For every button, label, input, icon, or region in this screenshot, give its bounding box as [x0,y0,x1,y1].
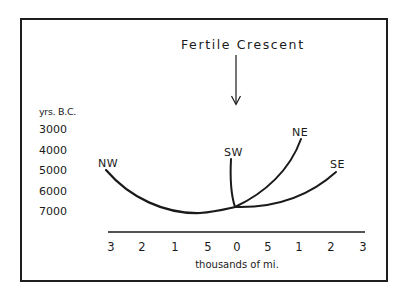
x-tick-w05: 5 [204,240,211,254]
y-label-7000: 7000 [39,205,67,218]
y-label-5000: 5000 [39,164,67,177]
branch-sw-curve [231,159,235,207]
down-arrow-icon [232,55,241,105]
branch-se-curve [235,172,336,207]
y-label-3000: 3000 [39,123,67,136]
branch-ne-curve [235,139,301,207]
diagram-title: Fertile Crescent [181,37,305,52]
x-tick-e05: 5 [264,240,271,254]
y-label-4000: 4000 [39,144,67,157]
x-tick-e1: 1 [295,240,302,254]
label-se: SE [330,158,345,171]
diagram-canvas: Fertile Crescent yrs. B.C. 3000 4000 500… [0,0,402,297]
y-axis-header: yrs. B.C. [39,106,76,117]
branch-nw-curve [106,170,235,213]
x-axis-label: thousands of mi. [195,259,279,270]
x-tick-w3: 3 [107,240,114,254]
x-tick-e3: 3 [359,240,366,254]
x-tick-e2: 2 [327,240,334,254]
label-sw: SW [224,146,243,159]
label-nw: NW [98,157,118,170]
y-label-6000: 6000 [39,185,67,198]
x-tick-w1: 1 [171,240,178,254]
x-tick-0: 0 [233,240,240,254]
x-tick-w2: 2 [138,240,145,254]
label-ne: NE [292,126,308,139]
